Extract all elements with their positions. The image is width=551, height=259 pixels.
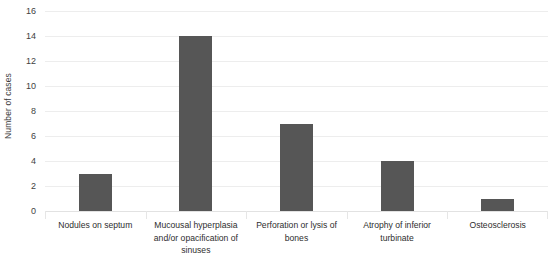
category-separator (146, 211, 147, 219)
gridline (45, 111, 548, 112)
y-axis-tick-label: 8 (31, 107, 36, 116)
gridline (45, 86, 548, 87)
y-axis-tick-label: 10 (26, 82, 36, 91)
y-axis-tick-labels: 0246810121416 (0, 11, 40, 211)
category-separators (45, 211, 548, 219)
y-axis-tick-label: 16 (26, 7, 36, 16)
category-separator (447, 211, 448, 219)
x-axis-category-label: Mucousal hyperplasia and/or opacificatio… (146, 219, 247, 259)
bar (381, 161, 414, 211)
gridline (45, 36, 548, 37)
y-axis-tick-label: 12 (26, 57, 36, 66)
category-separator (246, 211, 247, 219)
bar (280, 124, 313, 212)
x-axis-category-label: Nodules on septum (45, 219, 146, 259)
category-separator (547, 211, 548, 219)
x-axis-category-label: Perforation or lysis of bones (246, 219, 347, 259)
bar (79, 174, 112, 212)
x-axis-category-label: Osteosclerosis (447, 219, 548, 259)
y-axis-tick-label: 6 (31, 132, 36, 141)
bar (179, 36, 212, 211)
gridline (45, 11, 548, 12)
y-axis-tick-label: 4 (31, 157, 36, 166)
category-separator (45, 211, 46, 219)
gridline (45, 61, 548, 62)
y-axis-tick-label: 14 (26, 32, 36, 41)
plot-area (45, 11, 548, 211)
x-axis-tick-labels: Nodules on septumMucousal hyperplasia an… (45, 219, 548, 259)
bar (481, 199, 514, 212)
category-separator (347, 211, 348, 219)
x-axis-category-label: Atrophy of inferior turbinate (347, 219, 448, 259)
y-axis-tick-label: 2 (31, 182, 36, 191)
y-axis-tick-label: 0 (31, 207, 36, 216)
bar-chart: Number of cases 0246810121416 Nodules on… (0, 0, 551, 259)
